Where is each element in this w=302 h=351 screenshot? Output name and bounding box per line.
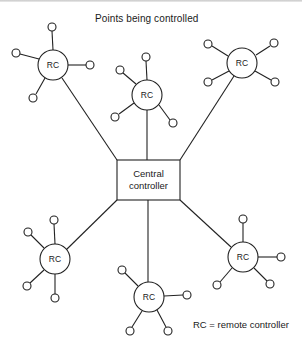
point-circle bbox=[239, 215, 247, 223]
rc-label-bottom-left: RC bbox=[40, 253, 70, 265]
rc-label-bottom-middle: RC bbox=[134, 291, 164, 303]
point-circle bbox=[183, 291, 191, 299]
point-circle bbox=[118, 266, 126, 274]
point-circle bbox=[169, 119, 177, 127]
central-controller-label: Central controller bbox=[117, 160, 180, 200]
point-circle bbox=[111, 113, 119, 121]
point-circle bbox=[23, 282, 31, 290]
point-circle bbox=[142, 53, 150, 61]
point-circle bbox=[29, 94, 37, 102]
point-circle bbox=[271, 78, 279, 86]
rc-label-top-left: RC bbox=[38, 59, 68, 71]
rc-label-top-right: RC bbox=[227, 57, 257, 69]
point-circle bbox=[51, 294, 59, 302]
central-controller-line2: controller bbox=[129, 180, 168, 192]
legend: RC = remote controller bbox=[193, 319, 289, 330]
point-circle bbox=[270, 39, 278, 47]
central-controller-line1: Central bbox=[133, 168, 164, 180]
rc-label-bottom-right: RC bbox=[228, 251, 258, 263]
point-circle bbox=[164, 327, 172, 335]
point-circle bbox=[266, 280, 274, 288]
rc-label-top-middle: RC bbox=[132, 89, 162, 101]
point-circle bbox=[213, 281, 221, 289]
point-circle bbox=[12, 49, 20, 57]
point-circle bbox=[24, 228, 32, 236]
point-circle bbox=[86, 61, 94, 69]
point-circle bbox=[277, 253, 285, 261]
point-circle bbox=[204, 40, 212, 48]
point-circle bbox=[126, 327, 134, 335]
point-circle bbox=[116, 66, 124, 74]
diagram-title: Points being controlled bbox=[95, 13, 198, 24]
point-circle bbox=[204, 78, 212, 86]
point-circle bbox=[48, 23, 56, 31]
point-circle bbox=[50, 216, 58, 224]
